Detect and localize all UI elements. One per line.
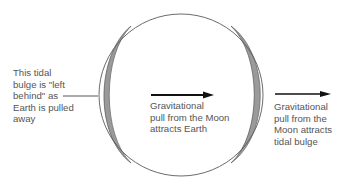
bulge-pull-line-2: pull from the	[274, 113, 332, 125]
left-bulge-line-3: behind" as	[13, 90, 74, 102]
earth-pull-line-3: attracts Earth	[150, 123, 229, 135]
bulge-pull-line-3: Moon attracts	[274, 124, 332, 136]
left-tidal-bulge	[104, 26, 131, 163]
left-bulge-line-1: This tidal	[13, 67, 74, 79]
earth-pull-line-2: pull from the Moon	[150, 112, 229, 124]
left-bulge-line-4: Earth is pulled	[13, 102, 74, 114]
right-tidal-bulge	[231, 26, 260, 163]
earth-pull-label: Gravitational pull from the Moon attract…	[150, 100, 229, 135]
left-bulge-label: This tidal bulge is "left behind" as Ear…	[13, 67, 74, 125]
earth-pull-arrow-icon	[151, 92, 214, 99]
left-bulge-line-2: bulge is "left	[13, 79, 74, 91]
bulge-pull-line-1: Gravitational	[274, 101, 332, 113]
earth-pull-line-1: Gravitational	[150, 100, 229, 112]
bulge-pull-arrow-icon	[275, 91, 331, 97]
bulge-pull-line-4: tidal bulge	[274, 136, 332, 148]
left-bulge-line-5: away	[13, 113, 74, 125]
bulge-pull-label: Gravitational pull from the Moon attract…	[274, 101, 332, 147]
